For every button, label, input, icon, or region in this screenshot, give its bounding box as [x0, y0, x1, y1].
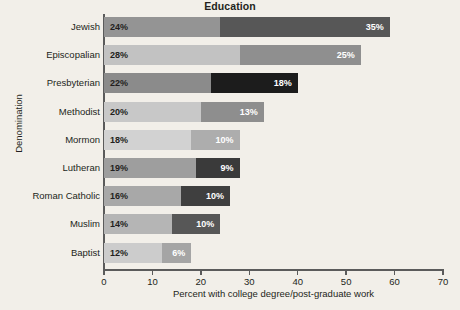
x-tick-mark [394, 270, 395, 275]
bar-segment-value-label: 18% [274, 73, 292, 93]
bar-segment-value-label: 16% [110, 186, 128, 206]
bar-segment-post-graduate: 9% [196, 158, 240, 178]
bar-row: Muslim14%10% [104, 214, 443, 234]
bar-segment-value-label: 35% [366, 17, 384, 37]
education-bar-chart: Education Denomination 010203040506070 P… [0, 0, 460, 310]
bar-segment-college-degree: 22% [104, 73, 211, 93]
category-label: Baptist [71, 243, 100, 263]
bar-row: Baptist12%6% [104, 243, 443, 263]
x-tick-label: 0 [84, 276, 124, 287]
x-tick-label: 30 [229, 276, 269, 287]
x-tick-mark [297, 270, 298, 275]
bar-segment-value-label: 24% [110, 17, 128, 37]
x-tick-mark [249, 270, 250, 275]
x-tick-mark [442, 270, 443, 275]
bar-segment-value-label: 13% [240, 102, 258, 122]
bar-segment-value-label: 10% [216, 130, 234, 150]
bar-segment-college-degree: 16% [104, 186, 181, 206]
bar-row: Jewish24%35% [104, 17, 443, 37]
x-tick-label: 10 [132, 276, 172, 287]
bar-segment-value-label: 12% [110, 243, 128, 263]
bar-segment-college-degree: 20% [104, 102, 201, 122]
category-label: Jewish [71, 17, 100, 37]
category-label: Methodist [59, 102, 100, 122]
x-tick-label: 60 [375, 276, 415, 287]
bar-segment-value-label: 9% [221, 158, 234, 178]
bar-segment-post-graduate: 25% [240, 45, 361, 65]
x-tick-mark [345, 270, 346, 275]
bar-row: Roman Catholic16%10% [104, 186, 443, 206]
category-label: Roman Catholic [32, 186, 100, 206]
x-tick-label: 70 [423, 276, 460, 287]
bar-segment-college-degree: 14% [104, 214, 172, 234]
bar-segment-value-label: 25% [337, 45, 355, 65]
category-label: Muslim [70, 214, 100, 234]
bar-row: Mormon18%10% [104, 130, 443, 150]
bar-segment-value-label: 20% [110, 102, 128, 122]
y-axis-title: Denomination [13, 54, 24, 194]
bar-segment-college-degree: 19% [104, 158, 196, 178]
x-tick-mark [200, 270, 201, 275]
bar-segment-college-degree: 28% [104, 45, 240, 65]
bar-segment-post-graduate: 6% [162, 243, 191, 263]
category-label: Episcopalian [46, 45, 100, 65]
bar-segment-value-label: 18% [110, 130, 128, 150]
bar-segment-post-graduate: 10% [172, 214, 220, 234]
bar-segment-post-graduate: 18% [211, 73, 298, 93]
bar-segment-college-degree: 24% [104, 17, 220, 37]
x-tick-label: 40 [278, 276, 318, 287]
bar-segment-post-graduate: 13% [201, 102, 264, 122]
bar-segment-value-label: 14% [110, 214, 128, 234]
bar-segment-value-label: 28% [110, 45, 128, 65]
bar-segment-post-graduate: 35% [220, 17, 390, 37]
bar-segment-value-label: 19% [110, 158, 128, 178]
x-tick-mark [103, 270, 104, 275]
category-label: Lutheran [62, 158, 100, 178]
bar-segment-value-label: 6% [172, 243, 185, 263]
category-label: Mormon [65, 130, 100, 150]
bar-segment-post-graduate: 10% [191, 130, 239, 150]
bar-row: Episcopalian28%25% [104, 45, 443, 65]
x-axis-title: Percent with college degree/post-graduat… [104, 288, 443, 299]
bar-row: Methodist20%13% [104, 102, 443, 122]
bar-row: Presbyterian22%18% [104, 73, 443, 93]
bar-segment-value-label: 22% [110, 73, 128, 93]
chart-title: Education [0, 0, 460, 13]
x-tick-label: 50 [326, 276, 366, 287]
bar-segment-value-label: 10% [196, 214, 214, 234]
bar-segment-post-graduate: 10% [181, 186, 229, 206]
bar-segment-value-label: 10% [206, 186, 224, 206]
category-label: Presbyterian [47, 73, 100, 93]
x-tick-label: 20 [181, 276, 221, 287]
bar-segment-college-degree: 18% [104, 130, 191, 150]
bar-segment-college-degree: 12% [104, 243, 162, 263]
bar-row: Lutheran19%9% [104, 158, 443, 178]
x-tick-mark [152, 270, 153, 275]
